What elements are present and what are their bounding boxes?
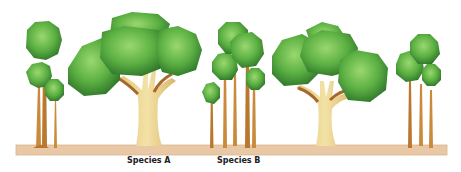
species-a-label: Species A <box>127 156 171 165</box>
slender-group-right <box>396 34 441 148</box>
slender-group-left <box>26 21 64 148</box>
broad-tree-species-a <box>68 12 202 146</box>
species-b-label: Species B <box>217 156 260 165</box>
ground-strip <box>16 145 447 155</box>
slender-group-species-b <box>202 22 265 148</box>
tree-diagram <box>0 0 461 172</box>
broad-tree-right <box>272 22 388 146</box>
